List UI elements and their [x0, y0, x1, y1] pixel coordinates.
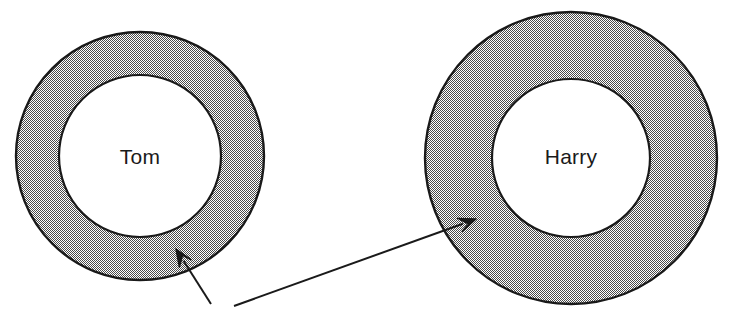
diagram-canvas: Tom Harry — [0, 0, 741, 323]
ring-label-harry: Harry — [545, 145, 598, 168]
ring-group-harry[interactable]: Harry — [0, 0, 741, 323]
ring-fill-harry — [0, 0, 741, 323]
ring-diagram: Tom Harry — [0, 0, 741, 323]
